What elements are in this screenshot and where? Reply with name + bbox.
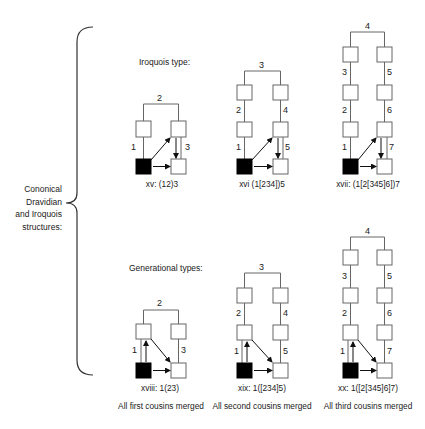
number-label: 7 xyxy=(387,346,392,356)
number-label: 1 xyxy=(340,346,345,356)
section-title-iroquois: Iroquois type: xyxy=(139,57,190,67)
diagram-xx xyxy=(343,237,392,378)
number-label: 3 xyxy=(259,262,264,272)
side-label-line: Dravidian xyxy=(0,196,62,209)
number-label: 3 xyxy=(181,345,186,355)
subcaption: All first cousins merged xyxy=(118,401,204,411)
side-label-line: and Iroquois xyxy=(0,208,62,221)
number-label: 3 xyxy=(259,60,264,70)
number-label: 4 xyxy=(365,226,370,236)
number-label: 2 xyxy=(236,105,241,115)
diagram-xv xyxy=(136,104,186,174)
diagram-xix xyxy=(237,273,288,378)
side-label-line: structures: xyxy=(0,221,62,234)
number-label: 2 xyxy=(157,298,162,308)
number-label: 1 xyxy=(131,142,136,152)
number-label: 1 xyxy=(236,142,241,152)
side-label: Cononical Dravidian and Iroquois structu… xyxy=(0,183,62,233)
number-label: 1 xyxy=(234,346,239,356)
kinship-diagrams xyxy=(0,0,425,429)
number-label: 2 xyxy=(236,308,241,318)
number-label: 5 xyxy=(387,271,392,281)
number-label: 1 xyxy=(342,142,347,152)
subcaption: All third cousins merged xyxy=(324,401,413,411)
caption: xviii: 1(23) xyxy=(141,383,179,393)
caption: xv: (12)3 xyxy=(146,179,178,189)
diagram-xvii xyxy=(343,32,392,174)
diagram-xviii xyxy=(136,310,186,378)
caption: xx: 1([2[345]6]7) xyxy=(338,383,398,393)
number-label: 3 xyxy=(185,142,190,152)
number-label: 3 xyxy=(342,271,347,281)
number-label: 6 xyxy=(387,308,392,318)
section-title-generational: Generational types: xyxy=(129,263,203,273)
number-label: 6 xyxy=(387,105,392,115)
number-label: 1 xyxy=(132,345,137,355)
number-label: 2 xyxy=(157,93,162,103)
caption: xvii: (1[2[345]6])7 xyxy=(336,179,400,189)
side-label-line: Cononical xyxy=(0,183,62,196)
number-label: 5 xyxy=(285,142,290,152)
number-label: 5 xyxy=(283,346,288,356)
number-label: 2 xyxy=(342,308,347,318)
number-label: 4 xyxy=(365,21,370,31)
number-label: 3 xyxy=(342,67,347,77)
caption: xix: 1([234]5) xyxy=(238,383,286,393)
number-label: 4 xyxy=(283,105,288,115)
diagram-xvi xyxy=(237,71,288,174)
number-label: 7 xyxy=(389,142,394,152)
number-label: 4 xyxy=(283,308,288,318)
curly-brace xyxy=(66,27,93,375)
caption: xvi (1[234])5 xyxy=(239,179,285,189)
number-label: 5 xyxy=(387,67,392,77)
subcaption: All second cousins merged xyxy=(212,401,311,411)
number-label: 2 xyxy=(342,105,347,115)
